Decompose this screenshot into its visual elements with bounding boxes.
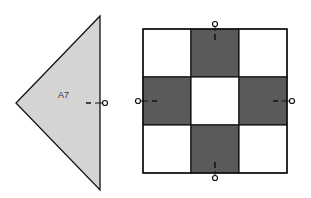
light-square [239,29,287,77]
piece-label: A7 [58,90,69,100]
dark-square [239,77,287,125]
dark-square [143,77,191,125]
light-square [239,125,287,173]
diagram-canvas: A7 [0,0,311,198]
light-square [191,77,239,125]
light-square [143,125,191,173]
nine-patch-block [143,29,287,173]
light-square [143,29,191,77]
triangle-piece: A7 [16,16,108,190]
